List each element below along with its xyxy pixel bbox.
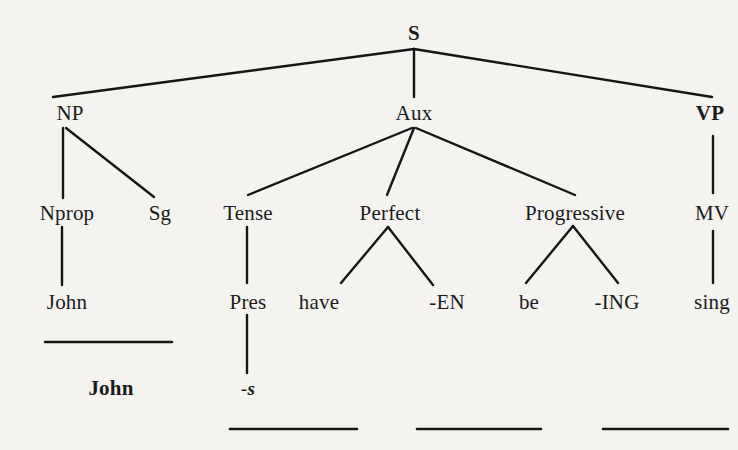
- branch-aux-to-perfect: [387, 128, 414, 195]
- node-vp: VP: [696, 103, 724, 124]
- node-john2: John: [88, 378, 133, 399]
- node-en: -EN: [429, 292, 465, 313]
- node-aux: Aux: [396, 103, 433, 124]
- branch-perfect-to-have: [341, 227, 388, 283]
- node-sg: Sg: [149, 203, 172, 224]
- branch-s-to-np: [53, 49, 414, 97]
- node-ing: -ING: [594, 292, 639, 313]
- node-mv: MV: [695, 203, 729, 224]
- branch-aux-to-tense: [248, 128, 412, 195]
- branch-aux-to-progressive: [416, 128, 575, 195]
- branch-progressive-to-be: [526, 226, 573, 283]
- branch-perfect-to-en: [388, 227, 433, 285]
- branch-s-to-vp: [414, 49, 712, 97]
- node-perfect: Perfect: [360, 203, 421, 224]
- node-np: NP: [56, 103, 83, 124]
- node-s: S: [408, 23, 420, 44]
- node-tense: Tense: [223, 203, 273, 224]
- node-have: have: [299, 292, 339, 313]
- node-be: be: [519, 292, 539, 313]
- branch-np-to-sg: [66, 128, 154, 197]
- node-sing: sing: [694, 292, 730, 313]
- node-john1: John: [47, 292, 87, 313]
- node-s: -s: [241, 379, 255, 398]
- phrase-structure-tree: SNPAuxVPNpropSgTensePerfectProgressiveMV…: [0, 0, 738, 450]
- node-progressive: Progressive: [525, 203, 625, 224]
- branch-progressive-to-ing: [573, 226, 618, 283]
- node-pres: Pres: [230, 292, 267, 313]
- node-nprop: Nprop: [40, 203, 95, 224]
